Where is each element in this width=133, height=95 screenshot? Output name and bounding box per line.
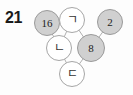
diagram-node-label: ㄱ xyxy=(67,14,78,26)
diagram-node-label: 8 xyxy=(88,43,94,54)
puzzle-figure: 21 16ㄱ2ㄴ8ㄷ xyxy=(0,0,133,95)
diagram-node-label: ㄷ xyxy=(67,68,78,80)
diagram-node-t1: 16 xyxy=(34,10,60,36)
diagram-node-t2: ㄱ xyxy=(59,7,85,33)
diagram-node-m1: ㄴ xyxy=(46,35,72,61)
diagram-node-label: 16 xyxy=(42,18,53,29)
diagram-node-b1: ㄷ xyxy=(59,61,85,87)
diagram-node-t3: 2 xyxy=(97,9,123,35)
diagram-node-label: 2 xyxy=(107,17,113,28)
diagram-node-label: ㄴ xyxy=(54,42,65,54)
diagram-node-m2: 8 xyxy=(77,34,105,62)
